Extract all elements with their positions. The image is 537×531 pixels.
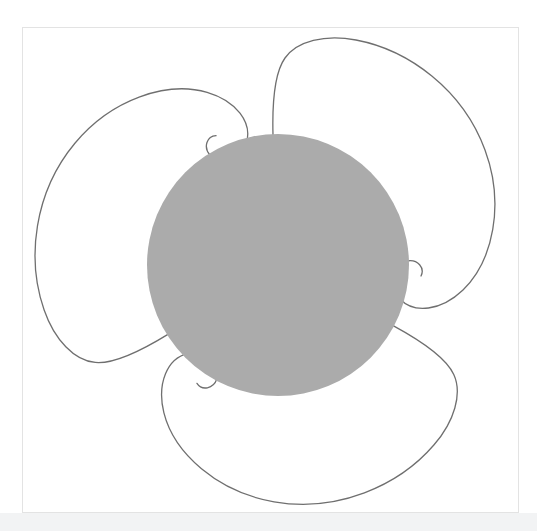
figure-panel	[22, 27, 519, 513]
bottom-strip	[0, 513, 537, 531]
central-disc	[147, 134, 409, 396]
spiral-figure-graphic	[23, 28, 518, 512]
figure-page: Triskelion spiral figure A solid gray di…	[0, 0, 537, 531]
